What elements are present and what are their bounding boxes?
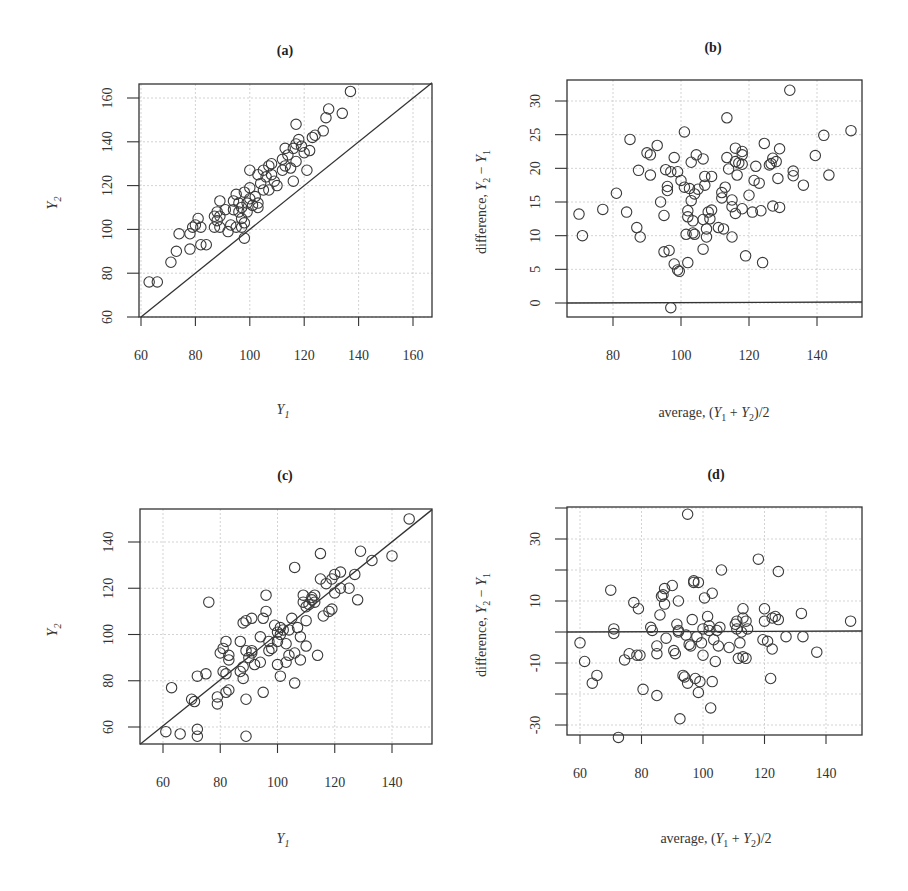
data-point — [280, 143, 290, 153]
data-point — [288, 176, 298, 186]
data-point — [647, 625, 657, 635]
data-point — [327, 604, 337, 614]
data-point — [675, 714, 685, 724]
data-point — [249, 659, 259, 669]
data-point — [345, 86, 355, 96]
data-point — [645, 170, 655, 180]
data-point — [672, 619, 682, 629]
data-point — [161, 726, 171, 736]
data-point — [247, 613, 257, 623]
y-tick-label: -30 — [528, 716, 543, 735]
y-tick-label: 10 — [528, 229, 543, 243]
x-tick-label: 100 — [671, 348, 692, 363]
panel-a: (a) 60801001201401606080100120140160 Y1 … — [45, 43, 432, 420]
data-point — [204, 597, 214, 607]
data-point — [284, 650, 294, 660]
data-point — [652, 690, 662, 700]
y-tick-label: 15 — [528, 195, 543, 209]
data-point — [174, 229, 184, 239]
panel-b-xlabel: average, (Y1 + Y2)/2 — [658, 405, 769, 423]
data-point — [632, 222, 642, 232]
panel-b-grid — [567, 80, 862, 317]
data-point — [669, 259, 679, 269]
data-point — [722, 113, 732, 123]
data-point — [744, 190, 754, 200]
data-point — [638, 684, 648, 694]
data-point — [701, 224, 711, 234]
data-point — [241, 615, 251, 625]
y-tick-label: 140 — [101, 532, 116, 553]
x-tick-label: 140 — [807, 348, 828, 363]
data-point — [682, 509, 692, 519]
data-point — [669, 152, 679, 162]
data-point — [289, 562, 299, 572]
panel-d-ylabel: difference, Y2 − Y1 — [474, 573, 492, 677]
x-tick-label: 60 — [156, 775, 170, 790]
data-point — [679, 127, 689, 137]
data-point — [223, 226, 233, 236]
data-point — [732, 170, 742, 180]
data-point — [267, 643, 277, 653]
data-point — [727, 202, 737, 212]
data-point — [705, 703, 715, 713]
y-tick-label: 0 — [528, 300, 543, 307]
data-point — [261, 606, 271, 616]
panel-d: (d) 6080100120140-30-101030 average, (Y1… — [474, 467, 862, 849]
x-tick-label: 140 — [382, 775, 403, 790]
data-point — [683, 206, 693, 216]
x-tick-label: 120 — [754, 766, 775, 781]
panel-c-identity-line — [140, 510, 432, 745]
data-point — [698, 244, 708, 254]
data-point — [707, 676, 717, 686]
data-point — [773, 614, 783, 624]
data-point — [773, 173, 783, 183]
data-point — [291, 119, 301, 129]
panel-b-ylabel: difference, Y2 − Y1 — [474, 150, 492, 254]
data-point — [289, 648, 299, 658]
data-point — [335, 567, 345, 577]
x-tick-label: 120 — [739, 348, 760, 363]
data-point — [819, 130, 829, 140]
data-point — [765, 673, 775, 683]
data-point — [185, 244, 195, 254]
data-point — [724, 642, 734, 652]
data-point — [682, 678, 692, 688]
data-point — [757, 257, 767, 267]
x-tick-label: 100 — [239, 348, 260, 363]
data-point — [781, 631, 791, 641]
panel-c-xlabel: Y1 — [277, 831, 290, 849]
data-point — [686, 195, 696, 205]
data-point — [613, 732, 623, 742]
data-point — [687, 614, 697, 624]
data-point — [221, 687, 231, 697]
data-point — [238, 673, 248, 683]
data-point — [699, 593, 709, 603]
panel-d-axes: 6080100120140-30-101030 — [528, 508, 837, 781]
data-point — [301, 641, 311, 651]
data-point — [266, 159, 276, 169]
data-point — [166, 257, 176, 267]
data-point — [737, 159, 747, 169]
data-point — [224, 655, 234, 665]
data-point — [621, 207, 631, 217]
data-point — [592, 670, 602, 680]
data-point — [609, 624, 619, 634]
data-point — [735, 638, 745, 648]
data-point — [741, 653, 751, 663]
data-point — [740, 251, 750, 261]
data-point — [235, 636, 245, 646]
panel-d-points — [575, 509, 856, 743]
data-point — [812, 647, 822, 657]
panel-a-ylabel: Y2 — [45, 197, 63, 210]
x-tick-label: 80 — [213, 775, 227, 790]
data-point — [773, 566, 783, 576]
data-point — [224, 685, 234, 695]
x-tick-label: 80 — [606, 348, 620, 363]
data-point — [295, 655, 305, 665]
data-point — [652, 140, 662, 150]
data-point — [633, 165, 643, 175]
data-point — [387, 551, 397, 561]
data-point — [798, 180, 808, 190]
data-point — [661, 633, 671, 643]
data-point — [175, 729, 185, 739]
